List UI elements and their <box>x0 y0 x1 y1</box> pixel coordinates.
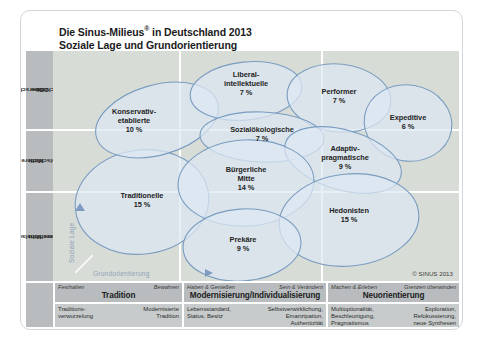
legend-modernisierung-title: Modernisierung/Individualisierung <box>187 291 323 301</box>
label-liberal-intellektuelle-line2: intellektuelle <box>224 79 268 88</box>
legend-column-tradition: Festhalten Bewahren Tradition Traditions… <box>53 283 182 327</box>
stratum-band-lower: Untere Mittelschicht/ Unterschicht <box>26 193 53 281</box>
legend-neuorientierung-values: Multioptionalität, Exploration, Beschleu… <box>328 302 459 327</box>
plot-field: .bub{fill:#dce8f2; fill-opacity:0.72; st… <box>53 51 459 281</box>
label-sozialoekologische-line1: Sozialökologische <box>230 125 294 134</box>
legend-tradition-sub-left: Festhalten <box>58 284 84 290</box>
label-traditionelle: Traditionelle 15 % <box>90 191 194 209</box>
legend-modernisierung-values: Lebensstandard, Selbstverwirklichung, St… <box>184 302 326 327</box>
label-expeditive: Expeditive 6 % <box>365 113 451 131</box>
legend-neuorientierung-val-left-l3: Pragmatismus <box>331 320 369 327</box>
label-adaptiv-pragmatische-line1: Adaptiv- <box>330 144 359 153</box>
value-konservativ-etablierte: 10 % <box>126 125 143 134</box>
legend-modernisierung-val-right-l1: Selbstverwirklichung, <box>268 306 323 313</box>
legend-corner-spacer <box>26 283 53 327</box>
legend-column-neuorientierung: Machen & Erleben Grenzen überwinden Neuo… <box>326 283 459 327</box>
label-konservativ-etablierte-line2: etablierte <box>118 116 150 125</box>
legend-neuorientierung-title: Neuorientierung <box>331 291 456 301</box>
legend-modernisierung-sub-right: Sein & Verändern <box>279 284 323 290</box>
label-adaptiv-pragmatische: Adaptiv- pragmatische 9 % <box>293 144 397 172</box>
legend-neuorientierung-val-right-l1: Exploration, <box>425 306 456 313</box>
legend-tradition-val-left-l2: verwurzelung <box>58 313 93 320</box>
label-buergerliche-mitte-line2: Mitte <box>238 174 255 183</box>
legend-modernisierung-val-right-l2: Emanzipation, <box>286 313 323 320</box>
x-axis-label: Grundorientierung <box>93 270 150 277</box>
legend-neuorientierung-val-left-l2: Beschleunigung, <box>331 313 375 320</box>
title-line-1-b: in Deutschland 2013 <box>149 26 251 38</box>
label-liberal-intellektuelle: Liberal- intellektuelle 7 % <box>191 70 301 98</box>
value-adaptiv-pragmatische: 9 % <box>339 162 352 171</box>
label-konservativ-etablierte: Konservativ- etablierte 10 % <box>79 107 189 135</box>
label-performer: Performer 7 % <box>294 87 384 105</box>
orientation-legend: Festhalten Bewahren Tradition Traditions… <box>26 283 459 327</box>
value-performer: 7 % <box>333 96 346 105</box>
label-buergerliche-mitte-line1: Bürgerliche <box>226 165 267 174</box>
stratum-band-upper: Oberschicht/ Obere Mittelschicht <box>26 51 53 131</box>
infographic-card: Die Sinus-Milieus® in Deutschland 2013 S… <box>20 10 463 330</box>
chart-area: Oberschicht/ Obere Mittelschicht Mittler… <box>26 51 459 281</box>
value-hedonisten: 15 % <box>341 215 358 224</box>
up-arrow-icon <box>75 203 85 211</box>
legend-tradition-header: Festhalten Bewahren Tradition <box>55 283 182 302</box>
label-hedonisten: Hedonisten 15 % <box>300 206 398 224</box>
label-konservativ-etablierte-line1: Konservativ- <box>112 107 156 116</box>
legend-modernisierung-sub-left: Haben & Genießen <box>187 284 235 290</box>
legend-neuorientierung-header: Machen & Erleben Grenzen überwinden Neuo… <box>328 283 459 302</box>
legend-neuorientierung-val-right-l3: neue Synthesen <box>413 320 456 327</box>
social-strata-axis: Oberschicht/ Obere Mittelschicht Mittler… <box>26 51 53 281</box>
axis-origin-marker <box>75 255 93 273</box>
legend-modernisierung-val-left-l1: Lebensstandard, <box>187 306 231 313</box>
value-traditionelle: 15 % <box>134 200 151 209</box>
value-expeditive: 6 % <box>402 122 415 131</box>
value-prekaere: 9 % <box>237 244 250 253</box>
label-prekaere: Prekäre 9 % <box>198 235 288 253</box>
right-arrow-icon <box>205 269 213 277</box>
legend-tradition-values: Traditions- Modernisierte verwurzelung T… <box>55 302 182 327</box>
legend-modernisierung-val-right-l3: Authentizität <box>291 320 323 327</box>
legend-modernisierung-val-left-l2: Status, Besitz <box>187 313 223 320</box>
legend-neuorientierung-val-right-l2: Refokussierung, <box>413 313 456 320</box>
label-traditionelle-line1: Traditionelle <box>121 191 164 200</box>
copyright-notice: © SINUS 2013 <box>412 270 453 277</box>
legend-modernisierung-header: Haben & Genießen Sein & Verändern Modern… <box>184 283 326 302</box>
label-hedonisten-line1: Hedonisten <box>329 206 369 215</box>
legend-neuorientierung-val-left-l1: Multioptionalität, <box>331 306 374 313</box>
label-adaptiv-pragmatische-line2: pragmatische <box>321 153 368 162</box>
legend-neuorientierung-sub-right: Grenzen überwinden <box>404 284 456 290</box>
stratum-band-middle: Mittlere Mittelschicht <box>26 131 53 193</box>
legend-tradition-val-right-l2: Tradition <box>156 313 179 320</box>
label-prekaere-line1: Prekäre <box>230 235 257 244</box>
legend-tradition-sub-right: Bewahren <box>154 284 179 290</box>
legend-tradition-val-left-l1: Traditions- <box>58 306 86 313</box>
y-axis-label: Soziale Lage <box>68 222 75 263</box>
label-sozialoekologische: Sozialökologische 7 % <box>206 125 318 143</box>
legend-column-modernisierung: Haben & Genießen Sein & Verändern Modern… <box>182 283 326 327</box>
legend-tradition-title: Tradition <box>58 291 179 301</box>
value-liberal-intellektuelle: 7 % <box>240 88 253 97</box>
label-buergerliche-mitte: Bürgerliche Mitte 14 % <box>194 165 298 193</box>
page-title: Die Sinus-Milieus® in Deutschland 2013 S… <box>59 22 399 53</box>
legend-neuorientierung-sub-left: Machen & Erleben <box>331 284 377 290</box>
value-buergerliche-mitte: 14 % <box>238 183 255 192</box>
legend-tradition-val-right-l1: Modernisierte <box>143 306 179 313</box>
value-sozialoekologische: 7 % <box>256 134 269 143</box>
title-line-1-a: Die Sinus-Milieus <box>59 26 144 38</box>
label-expeditive-line1: Expeditive <box>390 113 426 122</box>
label-liberal-intellektuelle-line1: Liberal- <box>233 70 259 79</box>
label-performer-line1: Performer <box>322 87 357 96</box>
